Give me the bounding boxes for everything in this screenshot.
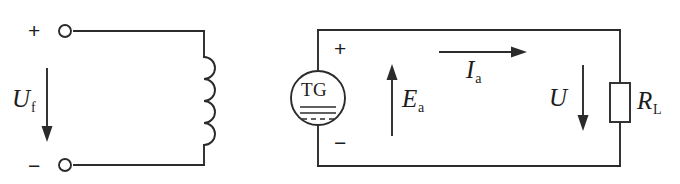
armature-negative-sign: − — [334, 132, 346, 153]
armature-positive-sign: + — [334, 38, 346, 59]
field-inductor-coil — [204, 57, 215, 145]
load-resistor-subscript: L — [652, 102, 661, 117]
field-negative-terminal[interactable] — [59, 159, 71, 171]
terminal-voltage-arrow-head — [578, 115, 589, 131]
field-voltage-label: Uf — [12, 86, 36, 111]
field-voltage-subscript: f — [30, 100, 36, 115]
emf-symbol: E — [402, 85, 417, 112]
current-label: Ia — [466, 57, 481, 82]
field-positive-terminal[interactable] — [59, 25, 71, 37]
field-voltage-arrow-head — [42, 126, 53, 142]
emf-label: Ea — [402, 86, 424, 111]
circuit-schematic-canvas — [0, 0, 680, 184]
emf-arrow-head — [387, 64, 398, 80]
field-voltage-symbol: U — [12, 85, 30, 112]
load-resistor-symbol-text: R — [637, 87, 652, 114]
load-resistor-label: RL — [637, 88, 662, 113]
field-positive-sign: + — [28, 20, 40, 41]
tachogenerator-label: TG — [301, 80, 327, 99]
circuit-diagram: + − Uf + − TG Ea Ia U RL — [0, 0, 680, 184]
terminal-voltage-label: U — [549, 85, 567, 110]
current-arrow-head — [511, 47, 527, 58]
field-negative-sign: − — [28, 155, 40, 176]
load-resistor-symbol[interactable] — [610, 83, 630, 122]
emf-subscript: a — [417, 100, 424, 115]
field-circuit-group — [42, 25, 216, 171]
current-subscript: a — [474, 71, 481, 86]
